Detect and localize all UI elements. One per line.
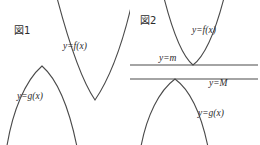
panel-2-label-m-expr: m — [169, 53, 176, 63]
math-figure-root: 図1 y=f(x) y=g(x) 図2 y=f(x) y=m y=M y=g(x… — [0, 0, 260, 145]
panel-1-plot — [0, 0, 130, 145]
panel-2-caption: 図2 — [140, 16, 156, 26]
panel-1-label-f: y=f(x) — [63, 42, 87, 52]
panel-2-label-f: y=f(x) — [192, 26, 216, 36]
figure-panel-2: 図2 y=f(x) y=m y=M y=g(x) — [130, 0, 260, 145]
panel-2-label-g-expr: g(x) — [208, 108, 224, 118]
panel-2-label-g: y=g(x) — [198, 109, 224, 119]
panel-2-label-line-capital-m: y=M — [209, 79, 227, 89]
panel-2-label-line-m: y=m — [159, 54, 176, 64]
panel-2-label-f-expr: f(x) — [202, 25, 216, 35]
panel-1-label-g-expr: g(x) — [27, 91, 43, 101]
panel-1-label-g: y=g(x) — [17, 92, 43, 102]
panel-1-caption: 図1 — [14, 26, 30, 36]
curve-g-panel-1 — [6, 66, 78, 145]
panel-2-label-capital-m-expr: M — [219, 78, 227, 88]
panel-1-label-f-expr: f(x) — [73, 41, 87, 51]
figure-panel-1: 図1 y=f(x) y=g(x) — [0, 0, 130, 145]
